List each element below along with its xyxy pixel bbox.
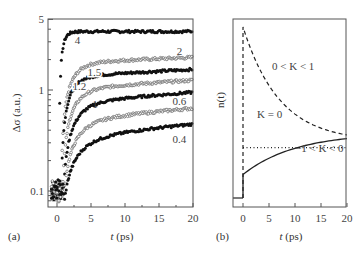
- panel-a-data-points: [50, 29, 193, 203]
- panel-b-curves: [233, 27, 347, 198]
- y-tick-label: 1: [39, 84, 45, 96]
- x-tick-label: 5: [266, 212, 272, 224]
- curve-label-0.6: 0.6: [173, 95, 187, 107]
- panel-b-plot: 05101520 0 < K < 1 K = 0 −1 < K < 0 n(t)…: [214, 19, 353, 243]
- label-k-negative: −1 < K < 0: [295, 142, 344, 154]
- panel-b-y-axis-label: n(t): [214, 92, 227, 108]
- figure: 051015200.115 421.51.210.60.4 Δσ (a.u.) …: [0, 0, 361, 253]
- x-tick-label: 15: [316, 212, 328, 224]
- y-tick-label: 0.1: [30, 185, 44, 197]
- x-tick-label: 20: [342, 212, 354, 224]
- curve-label-2: 2: [177, 45, 183, 57]
- curve-label-4: 4: [75, 34, 81, 46]
- panel-b-ticks: 05101520: [240, 203, 353, 224]
- curve-label-1: 1: [92, 98, 98, 110]
- label-k-zero: K = 0: [257, 108, 283, 120]
- curve-label-1.2: 1.2: [73, 80, 87, 92]
- x-tick-label: 10: [290, 212, 302, 224]
- panel-a-plot: 051015200.115 421.51.210.60.4 Δσ (a.u.) …: [8, 13, 199, 243]
- panel-a-label: (a): [8, 230, 21, 243]
- x-tick-label: 5: [88, 212, 94, 224]
- curve-label-0.4: 0.4: [173, 133, 187, 145]
- y-tick-label: 5: [39, 13, 45, 25]
- panel-a-x-axis-label: t (ps): [111, 230, 134, 243]
- curve-label-1.5: 1.5: [88, 66, 102, 78]
- x-tick-label: 15: [154, 212, 166, 224]
- x-tick-label: 0: [240, 212, 246, 224]
- panel-a-curve-labels: 421.51.210.60.4: [73, 34, 187, 144]
- panel-a-y-axis-label: Δσ (a.u.): [10, 93, 23, 132]
- panel-b-label: (b): [216, 230, 229, 243]
- panel-b-x-axis-label: t (ps): [280, 230, 303, 243]
- series-0.6: [50, 107, 193, 203]
- x-tick-label: 10: [120, 212, 132, 224]
- x-tick-label: 0: [54, 212, 60, 224]
- label-k-between-0-1: 0 < K < 1: [272, 60, 314, 72]
- x-tick-label: 20: [188, 212, 200, 224]
